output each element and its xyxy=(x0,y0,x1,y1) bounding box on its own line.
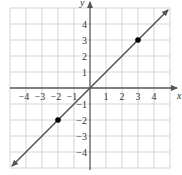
svg-text:2: 2 xyxy=(82,51,87,62)
svg-text:−2: −2 xyxy=(51,91,62,102)
x-axis-label: x xyxy=(176,90,182,101)
y-axis-label: y xyxy=(79,0,85,8)
svg-text:1: 1 xyxy=(82,67,87,78)
point-neg2-neg2 xyxy=(55,117,61,123)
svg-text:3: 3 xyxy=(82,35,87,46)
x-tick-labels: −4 −3 −2 −1 1 2 3 4 xyxy=(19,91,157,102)
svg-text:−3: −3 xyxy=(76,131,87,142)
svg-text:−3: −3 xyxy=(35,91,46,102)
svg-text:−4: −4 xyxy=(76,147,87,158)
svg-text:2: 2 xyxy=(120,91,125,102)
svg-text:3: 3 xyxy=(136,91,141,102)
coordinate-plane: x y −4 −3 −2 −1 1 2 3 4 4 3 2 1 −1 −2 −3… xyxy=(0,0,182,175)
svg-text:−4: −4 xyxy=(19,91,30,102)
svg-text:4: 4 xyxy=(82,19,87,30)
svg-text:1: 1 xyxy=(104,91,109,102)
line-y-equals-x xyxy=(90,10,168,88)
svg-text:4: 4 xyxy=(152,91,157,102)
svg-text:−2: −2 xyxy=(76,115,87,126)
point-3-3 xyxy=(135,37,141,43)
